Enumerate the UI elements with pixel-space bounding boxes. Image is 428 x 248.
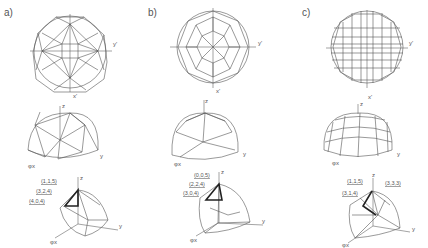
coord-label-2: (3,1,4) (342, 190, 358, 196)
panel-c-label: c) (302, 7, 310, 18)
axis-label-phi-x-octant: φx (190, 237, 197, 243)
panel-c-dome-view: x' z y φx (324, 94, 400, 166)
axis-label-x-prime: x' (73, 93, 77, 99)
axis-label-y-prime: y' (409, 40, 413, 46)
panel-c: c) y' x' z y φx (1,1 (302, 7, 415, 248)
coord-label-1: (0,0,5) (194, 172, 210, 178)
panel-a: a) y' x' z (4, 7, 122, 245)
axis-label-y-octant: y (262, 218, 265, 224)
axis-label-x-prime: x' (216, 88, 220, 94)
panel-b-top-view: y' x' (170, 8, 262, 94)
axis-label-z-octant: z (372, 172, 375, 178)
panel-b-octant-view: (0,0,5) (2,2,4) (3,0,4) z y φx (183, 169, 265, 243)
axis-label-x-prime: x' (368, 94, 372, 100)
axis-label-z-octant: z (221, 169, 224, 175)
axis-label-phi-x: φx (174, 161, 181, 167)
axis-label-y: y (100, 153, 103, 159)
axis-label-phi-x-octant: φx (50, 239, 57, 245)
coord-label-2: (2,2,4) (189, 181, 205, 187)
figure-canvas: a) y' x' z (0, 0, 428, 248)
axis-label-y: y (397, 151, 400, 157)
panel-a-octant-view: (1,1,5) (3,2,4) (4,0,4) z y φx (29, 175, 122, 245)
axis-label-y-octant: y (119, 223, 122, 229)
coord-label-3: (3,0,4) (183, 190, 199, 196)
axis-label-phi-x: φx (28, 163, 35, 169)
panel-b-label: b) (148, 7, 157, 18)
axis-label-phi-x: φx (332, 160, 339, 166)
coord-label-1: (1,1,5) (41, 178, 57, 184)
coord-label-1: (1,1,5) (347, 178, 363, 184)
axis-label-z: z (360, 101, 363, 107)
axis-label-phi-x-octant: φx (342, 242, 349, 248)
coord-label-2: (3,2,4) (36, 188, 52, 194)
panel-b: b) y' x' z y φx (148, 7, 265, 243)
panel-c-top-view: y' (326, 10, 413, 88)
panel-c-octant-view: (1,1,5) (3,1,4) (3,3,3) z y φx (342, 172, 415, 248)
coord-label-3: (3,3,3) (385, 180, 401, 186)
axis-label-z: z (62, 103, 65, 109)
panel-b-dome-view: z y φx (172, 98, 246, 167)
axis-label-y-octant: y (412, 226, 415, 232)
axis-label-z: z (205, 98, 208, 104)
coord-label-3: (4,0,4) (29, 198, 45, 204)
axis-label-z-octant: z (80, 175, 83, 181)
axis-label-y-prime: y' (258, 40, 262, 46)
panel-a-label: a) (4, 7, 13, 18)
panel-a-top-view: y' x' (30, 14, 117, 99)
axis-label-y: y (243, 151, 246, 157)
panel-a-dome-view: z y φx (28, 103, 103, 169)
axis-label-y-prime: y' (113, 41, 117, 47)
